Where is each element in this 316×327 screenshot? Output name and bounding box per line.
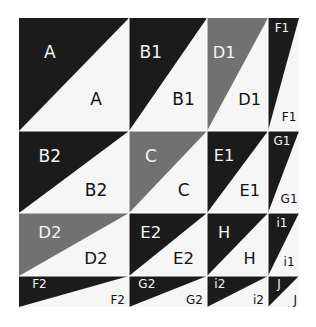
cell-label-upper: G1 bbox=[273, 134, 290, 148]
cell-label-upper: D1 bbox=[213, 43, 236, 62]
grid-cell: i1i1 bbox=[268, 213, 299, 276]
grid-cell: HH bbox=[207, 213, 268, 276]
cell-label-lower: E1 bbox=[239, 181, 260, 200]
grid-cell: G1G1 bbox=[268, 131, 299, 213]
cell-label-upper: G2 bbox=[138, 277, 155, 291]
cell-label-lower: G1 bbox=[281, 192, 298, 206]
cell-label-lower: G2 bbox=[186, 293, 203, 307]
cell-label-lower: H bbox=[244, 249, 256, 268]
cell-label-lower: F2 bbox=[110, 293, 125, 307]
cell-label-lower: E2 bbox=[173, 249, 194, 268]
cell-label-upper: C bbox=[145, 146, 157, 166]
grid-cell: F1F1 bbox=[268, 18, 299, 131]
grid-cell: JJ bbox=[268, 276, 299, 307]
cell-label-upper: F2 bbox=[32, 277, 47, 291]
cell-label-lower: J bbox=[292, 293, 297, 307]
cell-label-lower: C bbox=[178, 180, 190, 200]
cell-label-upper: H bbox=[218, 223, 230, 242]
cell-label-lower: D2 bbox=[84, 249, 107, 268]
grid-cell: B2B2 bbox=[19, 131, 129, 213]
cell-label-upper: E2 bbox=[140, 223, 161, 242]
cell-label-upper: A bbox=[44, 42, 56, 62]
grid-cell: E2E2 bbox=[129, 213, 207, 276]
cell-label-upper: B1 bbox=[140, 42, 162, 62]
cell-label-lower: i1 bbox=[284, 255, 295, 269]
cell-label-upper: D2 bbox=[38, 223, 61, 242]
grid-cell: B1B1 bbox=[129, 18, 207, 131]
grid-cell: G2G2 bbox=[129, 276, 207, 307]
cell-label-upper: i2 bbox=[214, 277, 225, 291]
cell-label-upper: i1 bbox=[276, 216, 287, 230]
cell-label-lower: F1 bbox=[282, 110, 297, 124]
cell-label-lower: A bbox=[90, 89, 102, 109]
grid-cell: D2D2 bbox=[19, 213, 129, 276]
grid-cell: i2i2 bbox=[207, 276, 268, 307]
cell-label-lower: B2 bbox=[85, 180, 107, 200]
cell-label-upper: F1 bbox=[275, 21, 290, 35]
cell-label-upper: B2 bbox=[39, 146, 61, 166]
grid-cell: AA bbox=[19, 18, 129, 131]
triangle-grid-diagram: AAB1B1D1D1F1F1B2B2CCE1E1G1G1D2D2E2E2HHi1… bbox=[0, 0, 316, 327]
grid-cell: E1E1 bbox=[207, 131, 268, 213]
grid-cell: F2F2 bbox=[19, 276, 129, 307]
cell-label-lower: D1 bbox=[238, 90, 261, 109]
grid-cell: CC bbox=[129, 131, 207, 213]
grid-cell: D1D1 bbox=[207, 18, 268, 131]
cell-label-lower: B1 bbox=[172, 89, 194, 109]
cell-label-lower: i2 bbox=[253, 293, 264, 307]
cell-label-upper: E1 bbox=[214, 146, 235, 165]
cell-label-upper: J bbox=[276, 277, 281, 291]
